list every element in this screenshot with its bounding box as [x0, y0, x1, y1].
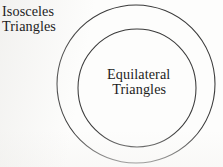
euler-diagram: Isosceles Triangles Equilateral Triangle…	[0, 0, 223, 167]
outer-set-label-isosceles-triangles: Isosceles Triangles	[2, 4, 56, 33]
inner-set-label-equilateral-triangles: Equilateral Triangles	[107, 67, 170, 96]
inner-set-label-line-1: Equilateral	[107, 67, 170, 82]
outer-set-label-line-2: Triangles	[2, 19, 56, 34]
outer-set-label-line-1: Isosceles	[2, 4, 56, 19]
inner-set-label-line-2: Triangles	[108, 82, 170, 97]
